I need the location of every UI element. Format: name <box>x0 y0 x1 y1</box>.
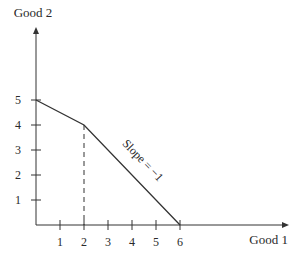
x-tick-label: 3 <box>105 235 111 249</box>
x-tick-label: 2 <box>81 235 87 249</box>
y-axis-arrow-icon <box>33 27 39 34</box>
slope-annotation: Slope = −1 <box>120 136 167 184</box>
x-axis-label: Good 1 <box>249 232 288 247</box>
x-tick-label: 6 <box>177 235 183 249</box>
x-tick-label: 1 <box>57 235 63 249</box>
x-tick-label: 4 <box>129 235 135 249</box>
chart: 12345612345 Good 1Good 2Slope = −1 <box>0 0 303 258</box>
y-tick-label: 1 <box>15 193 21 207</box>
y-tick-label: 5 <box>15 93 21 107</box>
labels: Good 1Good 2Slope = −1 <box>14 5 288 247</box>
x-axis-arrow-icon <box>282 222 289 228</box>
x-tick-label: 5 <box>153 235 159 249</box>
y-axis-label: Good 2 <box>14 5 53 20</box>
series <box>36 100 180 225</box>
axes <box>33 27 289 228</box>
y-tick-label: 2 <box>15 168 21 182</box>
y-tick-label: 3 <box>15 143 21 157</box>
y-tick-label: 4 <box>15 118 21 132</box>
budget-constraint-line <box>36 100 180 225</box>
